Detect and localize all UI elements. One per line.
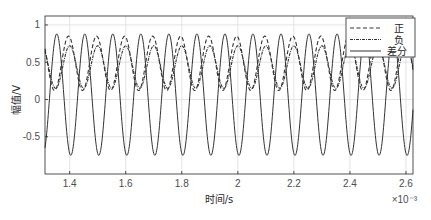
x-tick-label: 2: [235, 178, 241, 189]
y-tick-label: 0: [34, 94, 40, 105]
x-axis-label: 时间/s: [205, 193, 234, 205]
legend-label: 差分: [387, 45, 407, 57]
x-tick-label: 2.6: [399, 178, 413, 189]
x-axis-exponent: ×10⁻³: [392, 194, 418, 205]
y-tick-label: 0.5: [26, 57, 40, 68]
y-tick-label: -0.5: [23, 131, 41, 142]
x-tick-label: 1.8: [175, 178, 189, 189]
x-tick-label: 2.4: [343, 178, 357, 189]
y-axis-label: 幅值/V: [10, 85, 22, 115]
y-tick-label: 1: [34, 19, 40, 30]
x-tick-label: 2.2: [287, 178, 301, 189]
legend: 正负差分: [346, 18, 415, 57]
legend-label: 正: [394, 23, 404, 34]
legend-label: 负: [394, 34, 404, 46]
x-tick-label: 1.4: [63, 178, 77, 189]
x-tick-label: 1.6: [119, 178, 133, 189]
chart: 1.41.61.822.22.42.6 -0.500.51 时间/s 幅值/V …: [0, 0, 431, 220]
y-axis: -0.500.51: [23, 19, 48, 142]
